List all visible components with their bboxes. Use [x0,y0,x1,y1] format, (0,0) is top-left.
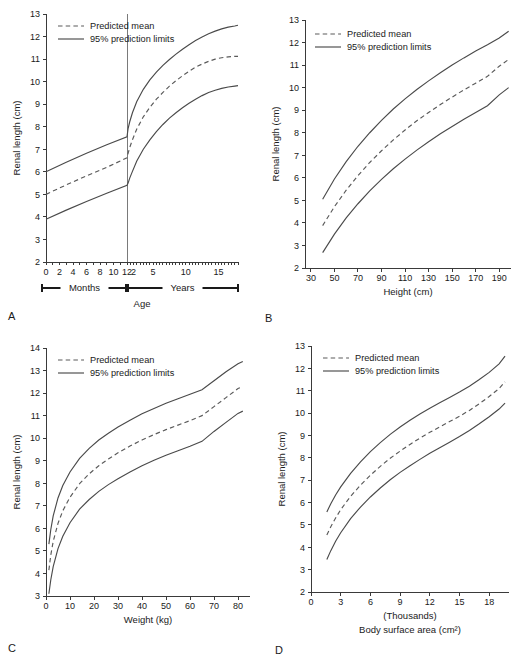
y-tick-label: 6 [35,524,40,534]
y-tick-label: 13 [289,15,299,25]
legend-label-predicted-mean: Predicted mean [90,21,154,31]
panel-c-weight: 34567891011121314Renal length (cm)010203… [0,330,261,660]
panel-letter: C [8,642,16,654]
y-tick-label: 2 [35,257,40,267]
y-tick-label: 9 [294,105,299,115]
x-tick-label: 90 [377,273,387,283]
x-tick-label: 3 [338,597,343,607]
series-curve [46,25,238,172]
y-tick-label: 13 [30,9,40,19]
series-curve [327,356,505,512]
y-tick-label: 2 [294,263,299,273]
x-axis-title: Height (cm) [383,286,432,297]
legend-label-prediction-limits: 95% prediction limits [90,368,175,378]
y-tick-label: 6 [300,498,305,508]
age-segment-label-years: Years [171,282,195,293]
x-tick-label: 70 [353,273,363,283]
panel-letter: D [275,644,283,656]
x-tick-label: 50 [161,601,171,611]
x-tick-label: 9 [398,597,403,607]
legend-label-predicted-mean: Predicted mean [90,355,154,365]
y-tick-label: 7 [294,151,299,161]
y-tick-label: 5 [294,196,299,206]
y-tick-label: 9 [300,431,305,441]
x-tick-label-months: 4 [70,267,75,277]
series-curve [323,59,509,225]
x-tick-label: 50 [329,273,339,283]
y-axis-title: Renal length (cm) [276,432,287,507]
series-curve [46,56,238,194]
x-axis-note: (Thousands) [383,610,436,621]
y-tick-label: 4 [294,218,299,228]
y-tick-label: 11 [31,54,40,64]
renal-length-figure: 2345678910111213Renal length (cm)0246810… [0,0,522,660]
x-tick-label: 30 [306,273,316,283]
x-tick-label: 30 [113,601,123,611]
y-tick-label: 5 [35,546,40,556]
x-tick-label: 40 [137,601,147,611]
x-tick-label: 0 [308,597,313,607]
y-tick-label: 9 [35,456,40,466]
x-tick-label-years: 2 [131,267,136,277]
y-tick-label: 3 [300,565,305,575]
y-axis-title: Renal length (cm) [11,435,22,510]
y-tick-label: 13 [295,341,305,351]
y-tick-label: 7 [35,501,40,511]
y-tick-label: 10 [30,433,40,443]
legend-label-prediction-limits: 95% prediction limits [355,366,440,376]
y-tick-label: 4 [300,543,305,553]
x-tick-label: 150 [445,273,460,283]
y-tick-label: 8 [35,479,40,489]
legend: Predicted mean95% prediction limits [323,353,440,376]
x-tick-label-years: 5 [151,267,156,277]
y-tick-label: 7 [300,475,305,485]
x-tick-label: 130 [421,273,436,283]
legend-label-prediction-limits: 95% prediction limits [347,42,432,52]
y-tick-label: 10 [30,77,40,87]
x-tick-label: 0 [43,601,48,611]
y-tick-label: 11 [31,411,40,421]
x-tick-label: 15 [454,597,464,607]
y-tick-label: 12 [289,38,299,48]
legend: Predicted mean95% prediction limits [58,355,175,378]
age-bracket-divider [125,284,129,292]
y-tick-label: 5 [35,190,40,200]
y-tick-label: 9 [35,99,40,109]
x-tick-label: 6 [368,597,373,607]
x-tick-label-months: 6 [84,267,89,277]
x-tick-label: 10 [65,601,75,611]
x-axis-title: Body surface area (cm²) [359,624,461,635]
x-axis-title: Weight (kg) [124,614,172,625]
panel-d-bsa: 2345678910111213Renal length (cm)0369121… [261,330,522,660]
series-curve [49,362,243,545]
series-curve [327,403,505,560]
series-curve [49,386,243,570]
x-tick-label: 80 [233,601,243,611]
y-tick-label: 11 [290,60,299,70]
panel-b-height: 2345678910111213Renal length (cm)3050709… [261,0,522,330]
y-tick-label: 10 [289,83,299,93]
series-curve [327,382,505,535]
y-tick-label: 10 [295,408,305,418]
x-tick-label-months: 0 [43,267,48,277]
y-tick-label: 2 [300,587,305,597]
panel-letter: B [265,312,272,324]
x-tick-label: 60 [185,601,195,611]
x-tick-label: 110 [398,273,412,283]
y-tick-label: 12 [30,388,40,398]
y-tick-label: 4 [35,569,40,579]
x-axis-title: Age [134,298,151,309]
x-tick-label-years: 15 [213,267,223,277]
y-axis-title: Renal length (cm) [11,101,22,176]
series-curve [323,88,509,253]
y-tick-label: 12 [295,364,305,374]
legend-label-predicted-mean: Predicted mean [355,353,419,363]
x-tick-label: 20 [89,601,99,611]
y-tick-label: 5 [300,520,305,530]
y-axis-title: Renal length (cm) [270,107,281,182]
y-tick-label: 7 [35,145,40,155]
y-tick-label: 3 [294,241,299,251]
y-tick-label: 8 [300,453,305,463]
y-tick-label: 12 [30,32,40,42]
y-tick-label: 3 [35,591,40,601]
